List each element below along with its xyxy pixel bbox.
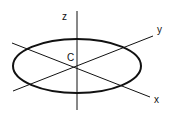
center-label: C (67, 52, 74, 63)
y-axis-label: y (157, 24, 162, 35)
y-axis (13, 36, 153, 91)
x-axis-label: x (154, 94, 159, 105)
z-axis-label: z (62, 11, 67, 22)
axes-diagram: z y x C (0, 0, 175, 113)
